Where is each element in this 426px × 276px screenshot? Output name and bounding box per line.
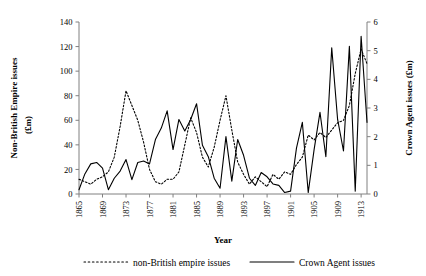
right-tick-label: 5 (374, 46, 378, 56)
x-tick-label: 1885 (192, 201, 202, 218)
right-tick-label: 0 (374, 189, 378, 199)
left-tick-label: 0 (68, 189, 72, 199)
x-tick-label: 1909 (333, 201, 343, 218)
x-tick-label: 1893 (239, 201, 249, 218)
x-tick-label: 1901 (286, 201, 296, 218)
x-tick-label: 1913 (356, 201, 366, 218)
y2-axis-title: Crown Agent issues (£m) (404, 60, 414, 156)
left-tick-label: 20 (64, 165, 73, 175)
legend-label-non-british-empire-issues: non-British empire issues (133, 258, 230, 268)
left-tick-label: 140 (60, 17, 73, 27)
right-tick-label: 3 (374, 103, 378, 113)
x-tick-label: 1905 (309, 201, 319, 218)
x-tick-label: 1889 (215, 201, 225, 218)
x-tick-label: 1897 (262, 201, 272, 218)
left-tick-label: 100 (60, 66, 73, 76)
left-tick-label: 120 (60, 42, 73, 52)
x-tick-label: 1877 (145, 201, 155, 218)
legend-label-crown-agent-issues: Crown Agent issues (299, 258, 375, 268)
left-tick-label: 60 (64, 115, 73, 125)
right-tick-label: 6 (374, 17, 378, 27)
line-chart: 020406080100120140 0123456 1865186918731… (0, 0, 426, 276)
left-tick-label: 40 (64, 140, 73, 150)
x-axis-title: Year (214, 235, 232, 245)
x-tick-label: 1873 (121, 201, 131, 218)
x-tick-label: 1865 (74, 201, 84, 218)
left-tick-label: 80 (64, 91, 73, 101)
x-tick-label: 1869 (98, 201, 108, 218)
y-axis-title-units: (£m) (23, 116, 33, 134)
x-tick-label: 1881 (168, 201, 178, 218)
right-tick-label: 1 (374, 160, 378, 170)
chart-figure: 020406080100120140 0123456 1865186918731… (0, 0, 426, 276)
right-tick-label: 2 (374, 132, 378, 142)
y-axis-title: Non-British Empire issues (9, 57, 19, 158)
